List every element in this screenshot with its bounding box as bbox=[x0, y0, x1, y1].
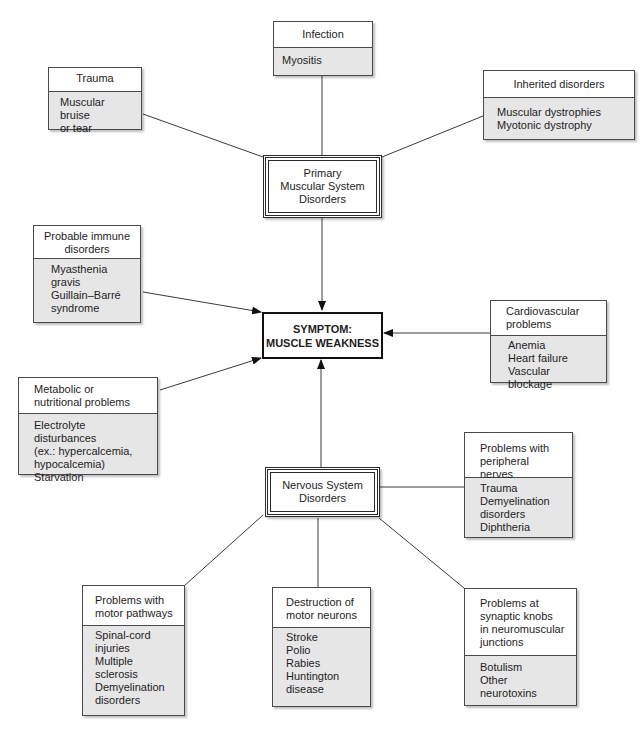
motor-neurons-box: Destruction of motor neurons Stroke Poli… bbox=[272, 587, 371, 707]
immune-disorders-items: Myasthenia gravis Guillain–Barré syndrom… bbox=[34, 259, 140, 322]
inherited-disorders-box: Inherited disorders Muscular dystrophies… bbox=[483, 70, 635, 140]
immune-disorders-title: Probable immune disorders bbox=[34, 226, 140, 259]
peripheral-nerves-title: Problems with peripheral nerves bbox=[465, 433, 572, 478]
motor-pathways-title: Problems with motor pathways bbox=[83, 586, 184, 626]
trauma-items: Muscular bruise or tear bbox=[49, 92, 141, 129]
motor-pathways-box: Problems with motor pathways Spinal-cord… bbox=[82, 585, 185, 716]
metabolic-problems-title: Metabolic or nutritional problems bbox=[19, 378, 157, 414]
symptom-muscle-weakness-node: SYMPTOM: MUSCLE WEAKNESS bbox=[262, 312, 383, 359]
inherited-disorders-title: Inherited disorders bbox=[484, 71, 634, 98]
peripheral-nerves-box: Problems with peripheral nerves Trauma D… bbox=[464, 432, 573, 538]
primary-muscular-disorders-node: Primary Muscular System Disorders bbox=[263, 155, 382, 218]
cardiovascular-problems-items: Anemia Heart failure Vascular blockage bbox=[491, 336, 606, 382]
inherited-disorders-items: Muscular dystrophies Myotonic dystrophy bbox=[484, 98, 634, 139]
trauma-title: Trauma bbox=[49, 68, 141, 92]
infection-items: Myositis bbox=[274, 48, 372, 75]
motor-pathways-items: Spinal-cord injuries Multiple sclerosis … bbox=[83, 626, 184, 715]
nervous-system-disorders-node: Nervous System Disorders bbox=[265, 467, 380, 517]
synaptic-knobs-items: Botulism Other neurotoxins bbox=[465, 656, 576, 705]
immune-disorders-box: Probable immune disorders Myasthenia gra… bbox=[33, 225, 141, 323]
synaptic-knobs-box: Problems at synaptic knobs in neuromuscu… bbox=[464, 588, 577, 706]
cardiovascular-problems-box: Cardiovascular problems Anemia Heart fai… bbox=[490, 300, 607, 383]
infection-title: Infection bbox=[274, 22, 372, 48]
motor-neurons-title: Destruction of motor neurons bbox=[273, 588, 370, 628]
motor-neurons-items: Stroke Polio Rabies Huntington disease bbox=[273, 628, 370, 706]
synaptic-knobs-title: Problems at synaptic knobs in neuromuscu… bbox=[465, 589, 576, 656]
metabolic-problems-items: Electrolyte disturbances (ex.: hypercalc… bbox=[19, 414, 157, 474]
trauma-box: Trauma Muscular bruise or tear bbox=[48, 67, 142, 130]
peripheral-nerves-items: Trauma Demyelination disorders Diphtheri… bbox=[465, 478, 572, 537]
cardiovascular-problems-title: Cardiovascular problems bbox=[491, 301, 606, 336]
infection-box: Infection Myositis bbox=[273, 21, 373, 76]
metabolic-problems-box: Metabolic or nutritional problems Electr… bbox=[18, 377, 158, 475]
